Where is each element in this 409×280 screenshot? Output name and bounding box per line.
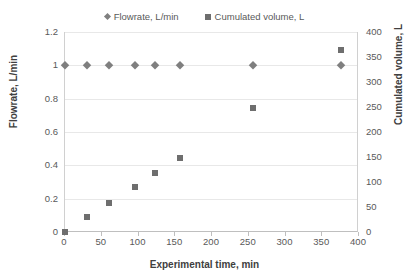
y-axis-left-title: Flowrate, L/min	[8, 32, 19, 152]
x-axis-tick-mark	[358, 232, 359, 236]
y-axis-left-tick-label: 0.6	[18, 126, 58, 137]
square-marker-icon	[205, 14, 211, 20]
y-axis-right-tick-label: 50	[366, 201, 406, 212]
x-axis-tick-label: 300	[265, 236, 305, 247]
data-point-flowrate[interactable]	[61, 61, 69, 69]
data-point-cumulated-volume[interactable]	[338, 47, 344, 53]
legend-item-flowrate[interactable]: Flowrate, L/min	[105, 11, 179, 22]
data-point-cumulated-volume[interactable]	[177, 155, 183, 161]
data-point-flowrate[interactable]	[83, 61, 91, 69]
x-axis-tick-label: 250	[228, 236, 268, 247]
y-axis-left-tick-label: 1.2	[18, 26, 58, 37]
plot-area	[64, 32, 358, 232]
x-axis-tick-label: 200	[191, 236, 231, 247]
y-axis-right-title: Cumulated volume, L	[393, 15, 404, 135]
chart-container: Flowrate, L/min Cumulated volume, L 00.2…	[0, 0, 409, 280]
data-point-cumulated-volume[interactable]	[152, 170, 158, 176]
x-axis-tick-label: 0	[44, 236, 84, 247]
data-point-flowrate[interactable]	[105, 61, 113, 69]
chart-legend: Flowrate, L/min Cumulated volume, L	[0, 11, 409, 22]
x-axis-tick-mark	[248, 232, 249, 236]
legend-label-flowrate: Flowrate, L/min	[114, 11, 179, 22]
gridline	[65, 32, 357, 33]
data-point-flowrate[interactable]	[131, 61, 139, 69]
x-axis-tick-mark	[321, 232, 322, 236]
diamond-marker-icon	[104, 13, 111, 20]
data-point-cumulated-volume[interactable]	[106, 200, 112, 206]
x-axis-tick-mark	[211, 232, 212, 236]
x-axis-tick-mark	[285, 232, 286, 236]
y-axis-right-tick-label: 100	[366, 176, 406, 187]
data-point-flowrate[interactable]	[249, 61, 257, 69]
x-axis-tick-label: 50	[81, 236, 121, 247]
x-axis-tick-label: 150	[154, 236, 194, 247]
data-point-flowrate[interactable]	[337, 61, 345, 69]
data-point-flowrate[interactable]	[176, 61, 184, 69]
x-axis-tick-label: 400	[338, 236, 378, 247]
x-axis-tick-mark	[101, 232, 102, 236]
x-axis-title: Experimental time, min	[0, 259, 409, 270]
x-axis-tick-label: 100	[118, 236, 158, 247]
gridline	[65, 99, 357, 100]
legend-item-cumulated-volume[interactable]: Cumulated volume, L	[205, 11, 305, 22]
x-axis-tick-label: 350	[301, 236, 341, 247]
y-axis-right-tick-label: 150	[366, 151, 406, 162]
data-point-cumulated-volume[interactable]	[62, 229, 68, 235]
data-point-cumulated-volume[interactable]	[250, 105, 256, 111]
y-axis-left-tick-label: 0.4	[18, 159, 58, 170]
y-axis-left-tick-label: 0.8	[18, 93, 58, 104]
y-axis-left-tick-label: 0.2	[18, 193, 58, 204]
data-point-cumulated-volume[interactable]	[84, 214, 90, 220]
legend-label-cumulated-volume: Cumulated volume, L	[215, 11, 305, 22]
data-point-cumulated-volume[interactable]	[132, 184, 138, 190]
gridline	[65, 132, 357, 133]
x-axis-tick-mark	[174, 232, 175, 236]
y-axis-left-tick-label: 1	[18, 59, 58, 70]
data-point-flowrate[interactable]	[151, 61, 159, 69]
x-axis-tick-mark	[138, 232, 139, 236]
gridline	[65, 165, 357, 166]
